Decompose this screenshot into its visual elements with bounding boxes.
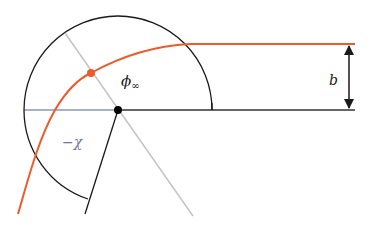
symmetry-axis	[65, 33, 193, 216]
center-dot	[114, 106, 122, 114]
neg-chi-label: −χ	[62, 134, 84, 150]
outgoing-ray	[85, 110, 118, 214]
phi-angle-arc	[24, 16, 212, 110]
orbit-point-dot	[87, 69, 95, 77]
scattering-diagram: ϕ∞ −χ b	[0, 0, 371, 225]
impact-parameter-label: b	[329, 72, 338, 88]
phi-inf-label: ϕ∞	[121, 72, 140, 91]
trajectory-curve	[18, 44, 355, 214]
chi-angle-arc	[24, 110, 88, 199]
